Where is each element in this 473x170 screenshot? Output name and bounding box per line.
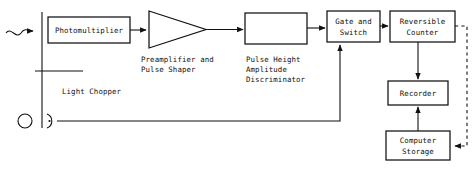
preamplifier-caption-line2: Pulse Shaper — [141, 65, 196, 74]
computer-storage-label-line2: Storage — [402, 147, 434, 156]
discriminator-caption-line1: Pulse Height — [246, 55, 301, 64]
discriminator-caption-line3: Discriminator — [246, 75, 306, 84]
light-chopper-caption: Light Chopper — [62, 87, 122, 96]
recorder-label: Recorder — [400, 89, 437, 98]
computer-storage-label-line1: Computer — [400, 136, 437, 145]
block-diagram: Photomultiplier Gate and Switch Reversib… — [0, 0, 473, 170]
photomultiplier-label: Photomultiplier — [55, 26, 124, 35]
discriminator-caption-line2: Amplitude — [246, 65, 287, 74]
gate-and-switch-label-line1: Gate and — [335, 17, 371, 26]
reversible-counter-label-line1: Reversible — [400, 17, 446, 26]
reference-detector-icon — [47, 114, 52, 128]
preamplifier-caption-line1: Preamplifier and — [141, 55, 214, 64]
preamplifier-block — [149, 11, 206, 48]
discriminator-block — [245, 13, 307, 44]
gate-and-switch-label-line2: Switch — [340, 28, 367, 37]
diagram-canvas: Photomultiplier Gate and Switch Reversib… — [0, 0, 473, 170]
wavy-light-arrow-icon — [6, 30, 33, 35]
lamp-circle-icon — [18, 114, 32, 128]
wire-counter-to-storage-dashed — [455, 26, 467, 146]
reversible-counter-label-line2: Counter — [407, 28, 439, 37]
